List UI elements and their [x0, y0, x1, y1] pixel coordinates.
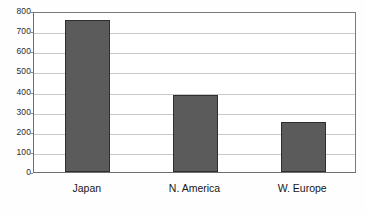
y-axis-tick-label: 600: [3, 47, 31, 56]
plot-area: [33, 12, 356, 173]
y-axis-tick-label: 400: [3, 88, 31, 97]
y-axis-tick-mark: [30, 32, 33, 33]
y-axis-tick-mark: [30, 52, 33, 53]
y-axis: 0100200300400500600700800: [0, 12, 31, 173]
y-axis-tick-label: 800: [3, 7, 31, 16]
y-axis-tick-mark: [30, 72, 33, 73]
bar[interactable]: [173, 95, 218, 172]
y-axis-tick-label: 100: [3, 148, 31, 157]
y-axis-tick-label: 700: [3, 27, 31, 36]
y-axis-tick-label: 500: [3, 67, 31, 76]
bar[interactable]: [281, 122, 326, 172]
y-axis-tick-label: 0: [3, 168, 31, 177]
y-axis-tick-mark: [30, 93, 33, 94]
bar-chart: 0100200300400500600700800 JapanN. Americ…: [0, 0, 366, 214]
x-axis-category-label: N. America: [135, 182, 255, 194]
y-axis-tick-label: 300: [3, 108, 31, 117]
y-axis-tick-mark: [30, 133, 33, 134]
x-axis-category-label: Japan: [27, 182, 147, 194]
y-axis-tick-mark: [30, 12, 33, 13]
x-axis-category-label: W. Europe: [242, 182, 362, 194]
y-axis-tick-label: 200: [3, 128, 31, 137]
y-axis-tick-mark: [30, 113, 33, 114]
y-axis-tick-mark: [30, 173, 33, 174]
bar[interactable]: [65, 20, 110, 172]
y-axis-tick-mark: [30, 153, 33, 154]
